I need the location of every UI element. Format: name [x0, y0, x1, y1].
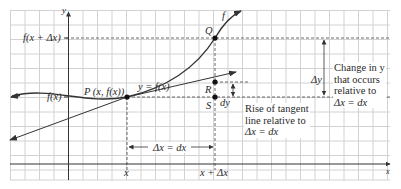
y-tick-lower: f(x) — [47, 91, 62, 102]
delta-y-label: Δy — [311, 74, 322, 85]
x-axis-label: x — [386, 166, 390, 177]
y-tick-upper: f(x + Δx) — [23, 32, 61, 43]
change-in-y-note: Change in y that occurs relative to Δx =… — [333, 62, 386, 108]
point-Q — [212, 35, 217, 40]
differential-diagram: y x f(x + Δx) f(x) x x + Δx f y = f(x) P… — [0, 0, 401, 189]
point-S-label: S — [206, 100, 211, 111]
x-tick-right: x + Δx — [200, 167, 228, 178]
point-R-label: R — [205, 84, 211, 95]
point-S — [212, 94, 217, 99]
rise-of-tangent-note: Rise of tangent line relative to Δx = dx — [244, 103, 310, 138]
point-P — [124, 94, 129, 99]
y-axis-label: y — [62, 5, 66, 16]
dy-label: dy — [220, 97, 230, 108]
point-R — [212, 79, 217, 84]
curve-label: f — [222, 10, 225, 21]
point-P-label: P (x, f(x)) — [84, 86, 124, 97]
equation-label: y = f(x) — [138, 81, 170, 92]
point-Q-label: Q — [205, 25, 213, 36]
x-tick-left: x — [124, 167, 129, 178]
dx-label: Δx = dx — [153, 142, 186, 153]
